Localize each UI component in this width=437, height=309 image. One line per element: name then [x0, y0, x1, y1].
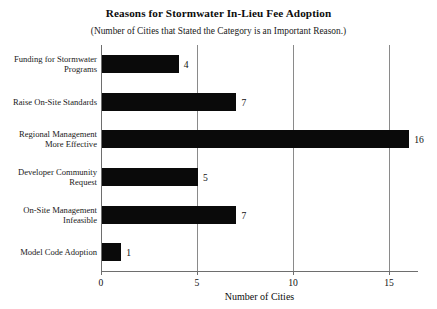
- bar-row[interactable]: 7: [102, 93, 236, 111]
- x-tick-mark-5: [197, 271, 198, 275]
- gridline-x-10: [293, 45, 294, 271]
- chart-container: Reasons for Stormwater In-Lieu Fee Adopt…: [0, 0, 437, 309]
- bar-row[interactable]: 1: [102, 243, 121, 261]
- y-axis-line: [101, 45, 102, 271]
- bar-value-label: 7: [241, 96, 246, 107]
- x-tick-mark-0: [101, 271, 102, 275]
- category-label: Raise On-Site Standards: [1, 97, 97, 107]
- category-label-line: Developer Community: [1, 167, 97, 177]
- x-tick-label-15: 15: [384, 277, 394, 288]
- bar-row[interactable]: 5: [102, 168, 198, 186]
- category-label-line: More Effective: [1, 139, 97, 149]
- category-label-line: On-Site Management: [1, 205, 97, 215]
- bar[interactable]: [102, 206, 236, 224]
- x-tick-label-10: 10: [288, 277, 298, 288]
- bar-row[interactable]: 7: [102, 206, 236, 224]
- x-tick-mark-15: [389, 271, 390, 275]
- x-axis-line: [101, 271, 418, 272]
- x-tick-mark-10: [293, 271, 294, 275]
- bar[interactable]: [102, 55, 179, 73]
- x-axis-title: Number of Cities: [101, 291, 418, 302]
- category-label: Developer CommunityRequest: [1, 167, 97, 187]
- category-label-line: Model Code Adoption: [1, 247, 97, 257]
- bar-value-label: 16: [414, 134, 424, 145]
- plot-area: 4716571: [101, 45, 418, 271]
- x-tick-label-0: 0: [99, 277, 104, 288]
- bar-row[interactable]: 16: [102, 130, 409, 148]
- gridline-x-5: [197, 45, 198, 271]
- bar[interactable]: [102, 130, 409, 148]
- category-label-line: Funding for Stormwater: [1, 54, 97, 64]
- category-label: Funding for StormwaterPrograms: [1, 54, 97, 74]
- category-label-line: Regional Management: [1, 129, 97, 139]
- category-label-line: Raise On-Site Standards: [1, 97, 97, 107]
- chart-subtitle: (Number of Cities that Stated the Catego…: [0, 26, 437, 36]
- chart-title: Reasons for Stormwater In-Lieu Fee Adopt…: [0, 7, 437, 19]
- bar-value-label: 1: [126, 247, 131, 258]
- x-tick-label-5: 5: [195, 277, 200, 288]
- category-axis-labels: Funding for StormwaterProgramsRaise On-S…: [0, 45, 97, 271]
- bar-value-label: 5: [203, 171, 208, 182]
- category-label: Model Code Adoption: [1, 247, 97, 257]
- category-label-line: Programs: [1, 64, 97, 74]
- category-label: Regional ManagementMore Effective: [1, 129, 97, 149]
- bar-value-label: 7: [241, 209, 246, 220]
- category-label: On-Site ManagementInfeasible: [1, 205, 97, 225]
- bar-row[interactable]: 4: [102, 55, 179, 73]
- bar[interactable]: [102, 243, 121, 261]
- bar-value-label: 4: [184, 58, 189, 69]
- bar[interactable]: [102, 168, 198, 186]
- gridline-x-15: [389, 45, 390, 271]
- category-label-line: Request: [1, 177, 97, 187]
- bar[interactable]: [102, 93, 236, 111]
- category-label-line: Infeasible: [1, 215, 97, 225]
